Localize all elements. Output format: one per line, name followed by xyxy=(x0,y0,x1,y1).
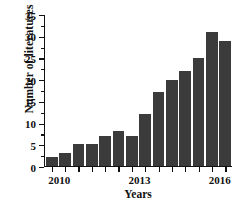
x-tick-label: 2013 xyxy=(129,174,151,177)
y-minor-tick xyxy=(41,156,44,157)
y-tick-0: 0 xyxy=(39,167,44,168)
y-tick-15: 15 xyxy=(39,102,44,103)
bar-2016 xyxy=(126,136,138,166)
x-tick-2022: 2022 xyxy=(212,167,213,172)
x-tick-2010: 2010 xyxy=(52,167,53,172)
bar-series xyxy=(45,15,232,166)
x-tick-label: 2016 xyxy=(209,174,231,177)
y-minor-tick xyxy=(41,26,44,27)
x-tick-2013: 2013 xyxy=(92,167,93,172)
y-minor-tick xyxy=(41,113,44,114)
y-tick-10: 10 xyxy=(39,124,44,125)
bar-2019 xyxy=(166,80,178,166)
y-tick-25: 25 xyxy=(39,58,44,59)
x-tick-label: 2010 xyxy=(48,174,70,177)
y-tick-label: 30 xyxy=(25,31,36,43)
x-tick-2016: 2016 xyxy=(132,167,133,172)
y-minor-tick xyxy=(41,134,44,135)
bar-2023 xyxy=(219,41,231,166)
bar-2017 xyxy=(139,114,151,166)
y-minor-tick xyxy=(41,91,44,92)
x-tick-2014 xyxy=(105,167,106,172)
bar-2012 xyxy=(73,144,85,166)
y-tick-20: 20 xyxy=(39,80,44,81)
bar-2021 xyxy=(193,58,205,166)
y-tick-label: 35 xyxy=(25,10,36,22)
y-tick-label: 0 xyxy=(31,162,37,174)
y-tick-label: 5 xyxy=(31,140,37,152)
bar-2013 xyxy=(86,144,98,166)
y-tick-5: 5 xyxy=(39,145,44,146)
bar-2014 xyxy=(99,136,111,166)
y-tick-label: 25 xyxy=(25,53,36,65)
y-tick-label: 10 xyxy=(25,118,36,130)
bar-2018 xyxy=(153,92,165,165)
bar-2011 xyxy=(59,153,71,166)
x-axis-line xyxy=(44,166,232,167)
x-tick-2018 xyxy=(159,167,160,172)
x-tick-2023 xyxy=(225,167,226,172)
x-axis-title: Years xyxy=(44,188,232,200)
y-tick-35: 35 xyxy=(39,15,44,16)
bar-chart-figure: Number of literatures 05101520253035 201… xyxy=(0,0,242,210)
y-minor-tick xyxy=(41,48,44,49)
bar-2015 xyxy=(113,131,125,165)
x-tick-2015 xyxy=(118,167,119,172)
bar-2022 xyxy=(206,32,218,165)
bar-2020 xyxy=(179,71,191,166)
bar-2010 xyxy=(46,157,58,166)
x-tick-2020 xyxy=(185,167,186,172)
y-tick-label: 15 xyxy=(25,96,36,108)
x-tick-2011 xyxy=(65,167,66,172)
x-tick-2019: 2019 xyxy=(172,167,173,172)
y-tick-30: 30 xyxy=(39,37,44,38)
y-tick-label: 20 xyxy=(25,75,36,87)
y-minor-tick xyxy=(41,69,44,70)
x-tick-2021 xyxy=(199,167,200,172)
x-tick-2017 xyxy=(145,167,146,172)
x-tick-2012 xyxy=(78,167,79,172)
plot-area: 05101520253035 20102013201620192022 xyxy=(44,15,232,167)
